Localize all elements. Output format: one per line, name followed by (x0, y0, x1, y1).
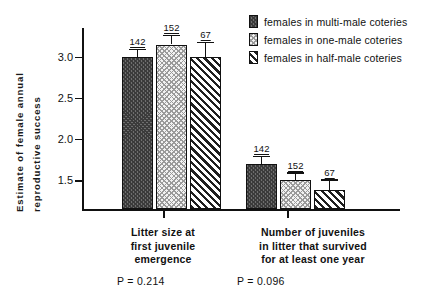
x-tick-mark-group-2 (287, 210, 289, 218)
category-label-group-1-line-2: first juvenile (96, 240, 230, 254)
y-tick-mark-3.0 (75, 57, 82, 59)
p-value-group-2: P = 0.096 (237, 275, 285, 287)
error-stem (295, 172, 297, 180)
y-axis-title-line-2: reproductive success (31, 96, 42, 212)
legend-swatch-multi-male-icon (249, 15, 258, 28)
legend-label-half-male: females in half-male coteries (264, 52, 402, 64)
chart-figure: Estimate of female annual reproductive s… (0, 0, 444, 299)
category-label-group-1-line-1: Litter size at (96, 226, 230, 240)
sample-size-group2-multi-male: 142 (254, 144, 270, 155)
legend: females in multi-male coteries females i… (249, 13, 407, 67)
y-tick-label-2.0: 2.0 (58, 133, 73, 145)
category-label-group-2-line-1: Number of juveniles (232, 226, 394, 240)
legend-label-multi-male: females in multi-male coteries (264, 16, 407, 28)
legend-item-one-male: females in one-male coteries (249, 31, 407, 48)
y-axis-title-line-1: Estimate of female annual (14, 72, 25, 212)
error-bar-group2-one-male (287, 172, 304, 180)
bar-group1-one-male (156, 45, 187, 210)
error-stem (205, 42, 207, 57)
y-tick-label-1.5: 1.5 (58, 174, 73, 186)
legend-item-half-male: females in half-male coteries (249, 49, 407, 66)
error-bar-group2-multi-male (253, 156, 270, 164)
error-bar-group1-one-male (163, 35, 180, 45)
bar-group2-one-male (280, 180, 311, 209)
error-bar-group1-half-male (197, 42, 214, 57)
error-stem (137, 49, 139, 57)
bar-group2-multi-male (246, 164, 277, 209)
category-label-group-2: Number of juveniles in litter that survi… (232, 226, 394, 267)
sample-size-group1-one-male: 152 (164, 23, 180, 34)
error-bar-group2-half-male (321, 179, 338, 190)
category-label-group-1-line-3: emergence (96, 253, 230, 267)
y-tick-mark-2.5 (75, 98, 82, 100)
legend-swatch-one-male-icon (249, 33, 258, 46)
error-stem (329, 179, 331, 190)
error-bar-group1-multi-male (129, 49, 146, 57)
y-tick-label-2.5: 2.5 (58, 92, 73, 104)
category-label-group-1: Litter size at first juvenile emergence (96, 226, 230, 267)
y-tick-mark-1.5 (75, 180, 82, 182)
sample-size-group2-one-male: 152 (288, 161, 304, 172)
bar-group1-multi-male (122, 57, 153, 209)
sample-size-group1-half-male: 67 (200, 30, 211, 41)
bar-group2-half-male (314, 190, 345, 209)
error-stem (261, 156, 263, 164)
y-tick-mark-2.0 (75, 139, 82, 141)
legend-label-one-male: females in one-male coteries (264, 34, 402, 46)
legend-item-multi-male: females in multi-male coteries (249, 13, 407, 30)
legend-swatch-half-male-icon (249, 51, 258, 64)
error-stem (171, 35, 173, 45)
category-label-group-2-line-2: in litter that survived (232, 240, 394, 254)
x-axis-line (82, 209, 400, 211)
category-label-group-2-line-3: for at least one year (232, 253, 394, 267)
p-value-group-1: P = 0.214 (117, 275, 165, 287)
bar-group1-half-male (190, 57, 221, 209)
sample-size-group2-half-male: 67 (324, 168, 335, 179)
x-tick-mark-group-1 (163, 210, 165, 218)
sample-size-group1-multi-male: 142 (130, 37, 146, 48)
y-tick-label-3.0: 3.0 (58, 51, 73, 63)
